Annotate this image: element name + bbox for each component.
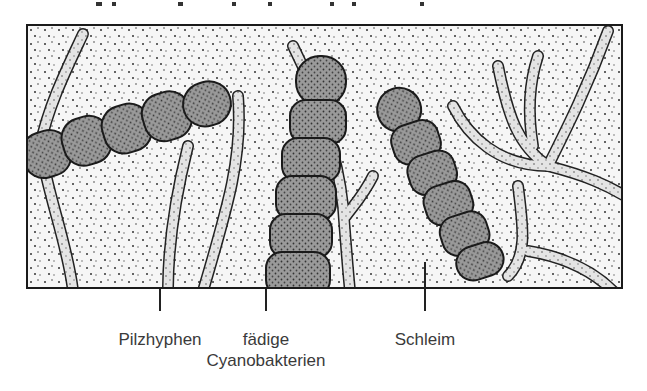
leader-line-pilzhyphen xyxy=(159,289,161,311)
label-schleim: Schleim xyxy=(365,329,485,350)
label-schleim-text: Schleim xyxy=(395,330,455,349)
illustration-svg xyxy=(28,26,623,289)
cut-off-title-fragments xyxy=(0,0,647,8)
leader-line-cyanobakterien xyxy=(265,289,267,311)
cut-off-title xyxy=(0,0,647,8)
label-cyanobakterien-line1: fädige xyxy=(186,329,346,350)
leader-line-schleim xyxy=(424,262,426,311)
label-cyanobakterien-line2: Cyanobakterien xyxy=(186,350,346,371)
micrograph-illustration xyxy=(26,24,623,289)
label-cyanobakterien: fädige Cyanobakterien xyxy=(186,329,346,371)
